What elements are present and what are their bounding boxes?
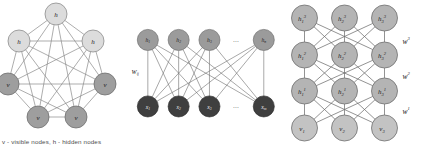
dbn-weight-label-1: w3 [403, 35, 411, 45]
weight-matrix-label: Wij [132, 69, 139, 76]
deep-belief-network-panel: h13h23h33h12h22h32h11h21h31v1v2v3 w3w2w1 [280, 0, 425, 148]
dbn-node-layer-h3-2: h23 [332, 5, 358, 31]
dbn-node-layer-v-3: v3 [372, 115, 398, 141]
bm-edge [65, 20, 84, 34]
dbn-weight-label-group: w3w2w1 [403, 35, 411, 115]
rbm-hidden-node-3: h3 [199, 29, 220, 50]
bm-node-v-bottom-left: v [27, 106, 49, 128]
bm-edge [83, 92, 97, 108]
rbm-hidden-node-4: hn [253, 29, 274, 50]
dbn-weight-label-2: w2 [403, 70, 411, 80]
rbm-visible-node-4: xm [253, 96, 274, 117]
dbn-weight-label-3: w1 [403, 105, 410, 115]
neural-network-figure: hhhvvvv h1h2h3hn...x1x2x3xm... Wij h13h2… [0, 0, 425, 148]
bm-edge [40, 25, 54, 106]
rbm-weight-label: Wij [132, 69, 139, 76]
bm-edge [78, 52, 90, 107]
dbn-node-layer-h2-2: h22 [332, 42, 358, 68]
rbm-hidden-node-2: h2 [168, 29, 189, 50]
boltzmann-machine-panel: hhhvvvv [0, 0, 130, 148]
node-label: h [17, 38, 21, 46]
bm-edge [96, 52, 102, 74]
node-label: h [91, 38, 95, 46]
bm-node-h-top: h [45, 3, 67, 25]
dbn-graph: h13h23h33h12h22h32h11h21h31v1v2v3 w3w2w1 [280, 0, 425, 148]
restricted-boltzmann-machine-panel: h1h2h3hn...x1x2x3xm... Wij [130, 0, 280, 148]
dbn-node-layer-v-2: v2 [332, 115, 358, 141]
dbn-edge-group [305, 23, 385, 122]
bm-node-h-upper-right: h [82, 30, 104, 52]
bm-node-v-left: v [0, 73, 19, 95]
dbn-node-layer-h3-1: h13 [292, 5, 318, 31]
dbn-node-layer-h2-3: h32 [372, 42, 398, 68]
bm-edge [29, 46, 95, 79]
dbn-node-layer-h1-3: h31 [372, 78, 398, 104]
bm-edge [58, 25, 74, 106]
dbn-node-layer-h2-1: h12 [292, 42, 318, 68]
dbn-node-layer-h3-3: h33 [372, 5, 398, 31]
figure-caption: v - visible nodes, h - hidden nodes [2, 138, 101, 145]
rbm-visible-ellipsis: ... [233, 103, 239, 109]
rbm-visible-node-1: x1 [137, 96, 158, 117]
rbm-graph: h1h2h3hn...x1x2x3xm... Wij [130, 0, 280, 148]
rbm-hidden-node-1: h1 [137, 29, 158, 50]
rbm-hidden-ellipsis: ... [233, 37, 239, 43]
bm-edge [15, 92, 30, 109]
rbm-edge-group [148, 45, 264, 101]
node-label: h [54, 11, 58, 19]
bm-edge [11, 52, 17, 74]
boltzmann-node-group: hhhvvvv [0, 3, 116, 128]
bm-edge [26, 50, 70, 108]
bm-node-h-upper-left: h [8, 30, 30, 52]
rbm-visible-node-3: x3 [199, 96, 220, 117]
bm-node-v-bottom-right: v [65, 106, 87, 128]
dbn-node-layer-v-1: v1 [292, 115, 318, 141]
dbn-node-layer-h1-1: h11 [292, 78, 318, 104]
bm-edge [28, 20, 47, 34]
dbn-node-layer-h1-2: h21 [332, 78, 358, 104]
rbm-visible-node-2: x2 [168, 96, 189, 117]
bm-node-v-right: v [94, 73, 116, 95]
bm-edge [18, 46, 83, 79]
boltzmann-machine-graph: hhhvvvv [0, 0, 130, 148]
